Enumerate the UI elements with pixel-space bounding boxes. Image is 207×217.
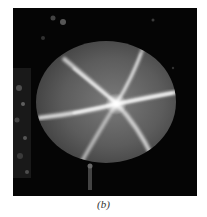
star-sapphire-photo: [13, 8, 197, 196]
star-center-glow: [105, 93, 127, 115]
figure-caption: (b): [0, 198, 207, 210]
gem-illustration: [13, 8, 197, 196]
